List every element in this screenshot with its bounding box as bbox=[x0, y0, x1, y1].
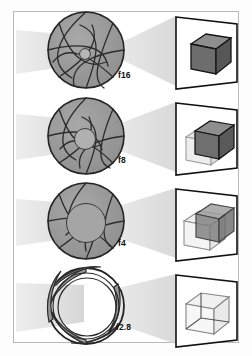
aperture-opening-f4 bbox=[67, 204, 106, 243]
row-f2.8 bbox=[16, 267, 237, 347]
fstop-label-f8: f8 bbox=[118, 156, 126, 165]
projected-cone-f2.8 bbox=[118, 274, 176, 344]
ghost-box-f2.8 bbox=[186, 293, 229, 334]
iris-diaphragm-f8 bbox=[48, 98, 124, 174]
row-f8 bbox=[16, 98, 237, 175]
iris-diaphragm-f16 bbox=[48, 12, 124, 88]
fstop-label-f2.8: f2.8 bbox=[116, 323, 131, 332]
iris-diaphragm-f4 bbox=[48, 183, 124, 259]
row-f4 bbox=[16, 183, 237, 261]
aperture-opening-f16 bbox=[80, 49, 91, 60]
aperture-opening-f8 bbox=[75, 129, 96, 150]
figure-root: f16 f8 f4 f2.8 bbox=[0, 0, 252, 356]
projected-cone-f4 bbox=[118, 188, 176, 258]
fstop-label-f4: f4 bbox=[118, 239, 126, 248]
aperture-depth-of-field-diagram bbox=[0, 0, 252, 356]
projected-cone-f8 bbox=[118, 102, 176, 172]
subject-box-f2.8 bbox=[186, 293, 229, 334]
fstop-label-f16: f16 bbox=[118, 71, 131, 80]
aperture-rows: f16 f8 f4 f2.8 bbox=[0, 0, 252, 356]
